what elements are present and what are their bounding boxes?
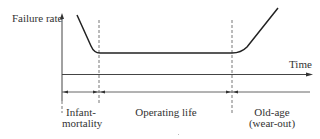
phase-label-line: (wear-out) [232,118,312,129]
arrow-infant-right-icon [93,91,98,94]
phase-label-operating-life: Operating life [100,107,232,118]
arrow-infant-left-icon [63,91,68,94]
phase-label-line: mortality [62,118,100,129]
y-axis-label: Failure rate [12,13,62,24]
x-axis-arrow-icon [306,73,313,77]
arrow-operating-right-icon [226,91,231,94]
phase-label-infant-mortality: Infant- mortality [62,107,100,129]
phase-label-line: Operating life [100,107,232,118]
arrow-oldage-left-icon [233,91,238,94]
phase-label-old-age: Old-age (wear-out) [232,107,312,129]
x-axis-label: Time [289,59,312,70]
failure-rate-curve [77,8,278,53]
arrow-operating-left-icon [100,91,105,94]
scan-speck [178,134,179,135]
